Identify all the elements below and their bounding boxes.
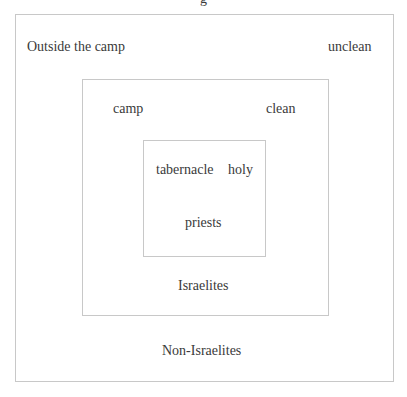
unclean-label: unclean xyxy=(328,40,372,54)
non-israelites-label: Non-Israelites xyxy=(162,344,241,358)
tabernacle-label: tabernacle xyxy=(156,163,214,177)
israelites-label: Israelites xyxy=(178,279,229,293)
title-fragment: g xyxy=(0,0,407,7)
clean-label: clean xyxy=(266,102,296,116)
camp-label: camp xyxy=(113,102,143,116)
outside-camp-label: Outside the camp xyxy=(27,40,125,54)
priests-label: priests xyxy=(185,216,222,230)
tabernacle-region-box xyxy=(143,140,266,257)
holy-label: holy xyxy=(228,163,253,177)
